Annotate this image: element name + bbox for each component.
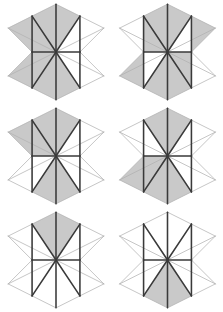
isometric-hexagon-diagram [112,0,223,104]
figure-top-right[interactable] [112,0,223,104]
isometric-hexagon-diagram [0,0,112,104]
figure-middle-right[interactable] [112,104,223,208]
isometric-hexagon-diagram [0,208,112,312]
figure-bottom-right[interactable] [112,208,223,312]
figure-top-left[interactable] [0,0,112,104]
isometric-hexagon-diagram [112,208,223,312]
figure-grid [0,0,223,312]
isometric-hexagon-diagram [112,104,223,208]
figure-middle-left[interactable] [0,104,112,208]
isometric-hexagon-diagram [0,104,112,208]
figure-bottom-left[interactable] [0,208,112,312]
